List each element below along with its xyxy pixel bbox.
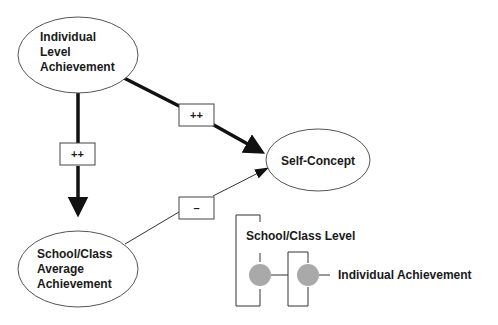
node-self-concept: Self-Concept <box>266 129 370 191</box>
school-level-circle <box>249 264 271 286</box>
node-individual-level-achievement: Individual Level Achievement <box>18 17 138 93</box>
multilevel-diagram: ++ ++ – Individual Level Achievement Sch… <box>0 0 498 325</box>
edge-individual-to-self-concept: ++ <box>124 78 262 152</box>
node-school-class-average-achievement: School/Class Average Achievement <box>18 231 138 307</box>
legend-outer-label: School/Class Level <box>246 229 355 243</box>
node-label: Self-Concept <box>281 154 355 168</box>
legend-inner-label: Individual Achievement <box>338 268 472 282</box>
legend: School/Class Level Individual Achievemen… <box>236 215 472 306</box>
edge-sign: ++ <box>190 109 203 121</box>
edge-sign: ++ <box>71 148 84 160</box>
edge-sign: – <box>193 202 199 214</box>
individual-level-circle <box>297 264 319 286</box>
edge-individual-to-school: ++ <box>60 92 95 214</box>
